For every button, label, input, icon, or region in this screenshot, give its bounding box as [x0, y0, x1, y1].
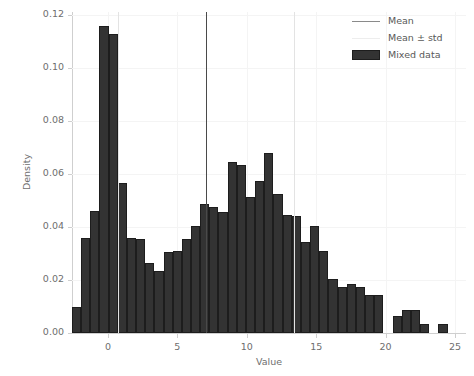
histogram-bar [310, 226, 319, 333]
y-tick-label-text: 0.06 [43, 167, 64, 178]
histogram-figure: Density Value 0510152025 0.000.020.040.0… [0, 0, 474, 376]
histogram-bar [218, 212, 227, 333]
legend-swatch-line [352, 32, 380, 44]
histogram-bar [420, 324, 429, 333]
y-tick-mark [68, 121, 72, 122]
legend-swatch-patch [352, 49, 380, 61]
x-tick-mark [247, 334, 248, 338]
x-tick-label: 25 [449, 341, 461, 352]
histogram-bar [90, 211, 99, 333]
histogram-bar [283, 215, 292, 333]
reference-line-mean [206, 12, 207, 333]
histogram-bar [393, 316, 402, 333]
histogram-bar [200, 204, 209, 333]
histogram-bar [255, 181, 264, 333]
gridline-horizontal [72, 121, 466, 122]
y-tick-mark [68, 280, 72, 281]
histogram-bar [191, 226, 200, 333]
y-tick-label-text: 0.04 [43, 220, 64, 231]
legend-line-icon [352, 38, 380, 39]
legend-item: Mean ± std [352, 29, 468, 46]
x-tick-label: 10 [241, 341, 253, 352]
x-tick-mark [386, 334, 387, 338]
gridline-horizontal [72, 68, 466, 69]
x-axis-label: Value [256, 356, 282, 367]
y-tick-mark [68, 15, 72, 16]
x-axis-line [72, 333, 466, 334]
histogram-bar [154, 271, 163, 333]
histogram-bar [319, 251, 328, 333]
histogram-bar [374, 295, 383, 333]
histogram-bar [264, 153, 273, 333]
histogram-bar [365, 295, 374, 333]
histogram-bar [145, 263, 154, 333]
histogram-bar [72, 307, 81, 334]
x-tick-label: 0 [105, 341, 111, 352]
histogram-bar [237, 165, 246, 333]
histogram-bar [338, 287, 347, 333]
legend-item: Mixed data [352, 46, 468, 63]
y-tick-label-text: 0.00 [43, 326, 64, 337]
histogram-bar [164, 252, 173, 333]
y-tick-label-text: 0.12 [43, 8, 64, 19]
histogram-bar [127, 238, 136, 333]
y-tick-mark [68, 174, 72, 175]
x-tick-label: 20 [380, 341, 392, 352]
legend-line-icon [352, 21, 380, 22]
histogram-bar [99, 26, 108, 333]
histogram-bar [438, 324, 447, 333]
histogram-bar [136, 239, 145, 333]
histogram-bar [109, 34, 118, 333]
x-tick-mark [316, 334, 317, 338]
legend-patch-icon [352, 50, 380, 60]
y-tick-mark [68, 68, 72, 69]
x-tick-mark [177, 334, 178, 338]
legend-item: Mean [352, 12, 468, 29]
histogram-bar [328, 279, 337, 333]
legend-label: Mean ± std [388, 32, 443, 43]
legend-swatch-line [352, 15, 380, 27]
y-tick-label-text: 0.08 [43, 114, 64, 125]
legend-label: Mixed data [388, 49, 440, 60]
y-tick-mark [68, 333, 72, 334]
y-tick-label-text: 0.10 [43, 61, 64, 72]
y-tick-mark [68, 227, 72, 228]
x-tick-mark [108, 334, 109, 338]
x-tick-label: 5 [174, 341, 180, 352]
histogram-bar [182, 239, 191, 333]
histogram-bar [228, 162, 237, 333]
histogram-bar [246, 197, 255, 333]
x-tick-mark [455, 334, 456, 338]
y-axis-label: Density [21, 154, 32, 190]
histogram-bar [273, 194, 282, 333]
reference-line-mean-minus-std [118, 12, 119, 333]
x-tick-label: 15 [310, 341, 322, 352]
histogram-bar [411, 310, 420, 333]
histogram-bar [402, 310, 411, 333]
reference-line-mean-plus-std [294, 12, 295, 333]
histogram-bar [173, 251, 182, 333]
histogram-bar [347, 284, 356, 333]
histogram-bar [356, 287, 365, 333]
histogram-bar [209, 207, 218, 333]
y-tick-label-text: 0.02 [43, 273, 64, 284]
legend-label: Mean [388, 15, 414, 26]
histogram-bar [301, 242, 310, 333]
legend: MeanMean ± stdMixed data [352, 12, 468, 63]
histogram-bar [81, 238, 90, 333]
